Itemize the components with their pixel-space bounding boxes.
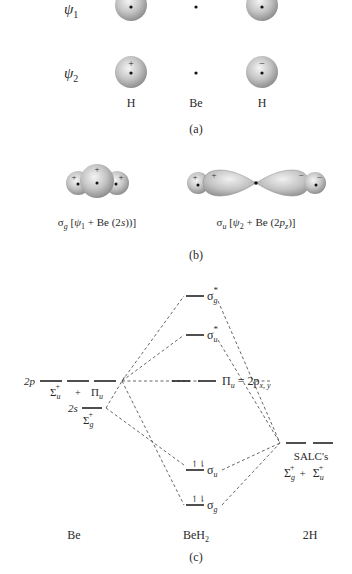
column-label-beh2: BeH2 [183,528,209,544]
be-2s-sigma-g-label: Σg+ [83,410,93,429]
beh2-mo-figure: ψ1 ψ2 + − H Be H (a) + + + [0,0,352,574]
svg-text:+: + [192,172,197,182]
mo-sigma-g-star-label: σg* [207,285,218,305]
atom-label-h-right: H [258,96,267,110]
plus-sign: + [75,387,81,398]
salc-symmetry-label: Σg++Σu+ [284,463,324,482]
be-2p-sigma-u-label: Σu+ [50,382,60,401]
svg-text:+: + [94,164,99,174]
plus-sign: + [128,58,134,69]
sigma-g-orbital-shape: + + + [66,164,129,198]
correlation-lines [106,296,280,505]
panel-b: + + + σg [ψ1 + Be (2s))] + + − − σu [ψ2 … [58,164,326,262]
be-2p-label: 2p [24,375,36,387]
panel-c: 2p Σu+ + Πu 2s Σg+ σg* σu* Πu = 2px, y ↿… [24,285,333,564]
sigma-u-caption: σu [ψ2 + Be (2pz)] [217,216,296,231]
psi1-label: ψ1 [64,1,78,20]
sigma-g-caption: σg [ψ1 + Be (2s))] [58,216,136,231]
h-orbital-right-psi1 [246,0,278,21]
be-2s-label: 2s [68,402,78,414]
svg-text:−: − [298,170,303,180]
caption-c: (c) [189,550,202,564]
minus-sign: − [259,58,265,69]
svg-text:+: + [211,170,216,180]
mo-sigma-u-star-label: σu* [207,324,218,344]
h-orbital-left-psi1 [115,0,147,21]
column-label-be: Be [67,528,80,542]
panel-a: ψ1 ψ2 + − H Be H (a) [64,0,278,136]
nucleus-dot [129,5,132,8]
electron-pair-icon: ↿⇂ [191,459,206,469]
column-label-2h: 2H [303,528,318,542]
svg-text:−: − [316,172,321,182]
atom-label-be: Be [189,96,202,110]
nucleus-dot [260,5,263,8]
nucleus-dot [260,71,263,74]
electron-pair-icon: ↿⇂ [191,494,206,504]
atom-label-h-left: H [127,96,136,110]
be-nucleus-dot [194,5,197,8]
svg-text:+: + [71,172,76,182]
caption-b: (b) [189,248,203,262]
mo-sigma-g-label: σg [207,498,217,514]
mo-pi-u-label: Πu = 2px, y [222,374,271,390]
mo-sigma-u-label: σu [207,463,217,479]
be-nucleus-dot [194,71,197,74]
nucleus-dot [129,71,132,74]
be-2p-pi-u-label: Πu [91,386,103,401]
salc-label: SALC's [294,450,328,462]
psi2-label: ψ2 [64,65,78,84]
svg-text:+: + [118,172,123,182]
caption-a: (a) [189,122,202,136]
sigma-u-orbital-shape: + + − − [187,170,326,196]
